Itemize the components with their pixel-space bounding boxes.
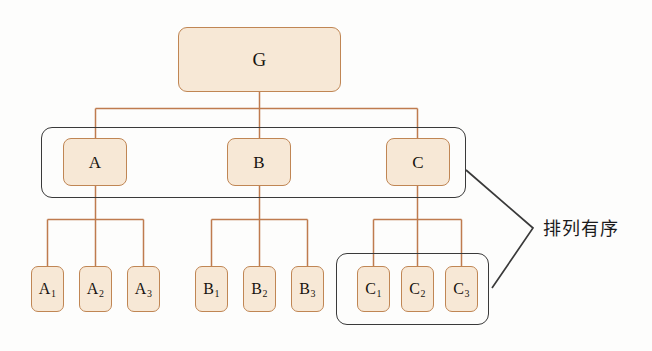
node-a[interactable]: A [63, 138, 127, 186]
node-c2[interactable]: C2 [401, 266, 434, 312]
node-c-label: C [412, 154, 424, 171]
node-b3[interactable]: B3 [291, 266, 324, 312]
node-c1-label: C1 [365, 281, 382, 297]
node-b2[interactable]: B2 [243, 266, 276, 312]
annotation-label: 排列有序 [543, 214, 619, 240]
node-c3-label: C3 [453, 281, 470, 297]
node-c[interactable]: C [386, 138, 450, 186]
node-a1[interactable]: A1 [31, 266, 64, 312]
node-a1-label: A1 [39, 281, 56, 297]
diagram-canvas: G A B C A1 A2 A3 B1 B2 B3 C1 C2 C3 排列有序 [0, 0, 652, 351]
node-b-label: B [253, 154, 265, 171]
node-b3-label: B3 [299, 281, 316, 297]
node-a2[interactable]: A2 [79, 266, 112, 312]
node-g-label: G [253, 50, 267, 69]
node-b[interactable]: B [227, 138, 291, 186]
node-a3[interactable]: A3 [127, 266, 160, 312]
node-b2-label: B2 [251, 281, 268, 297]
node-c2-label: C2 [409, 281, 426, 297]
node-c3[interactable]: C3 [445, 266, 478, 312]
node-a3-label: A3 [135, 281, 152, 297]
node-g[interactable]: G [178, 27, 341, 92]
node-b1-label: B1 [203, 281, 220, 297]
node-a2-label: A2 [87, 281, 104, 297]
node-b1[interactable]: B1 [195, 266, 228, 312]
node-a-label: A [89, 154, 101, 171]
node-c1[interactable]: C1 [357, 266, 390, 312]
